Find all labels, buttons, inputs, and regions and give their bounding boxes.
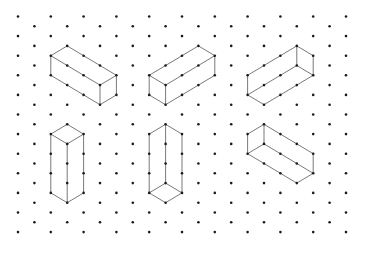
grid-dot bbox=[17, 113, 20, 116]
grid-dot bbox=[279, 152, 282, 155]
grid-dot bbox=[181, 94, 184, 97]
grid-dot bbox=[50, 74, 53, 77]
grid-dot bbox=[66, 25, 69, 28]
grid-dot bbox=[312, 211, 315, 214]
grid-dot bbox=[17, 35, 20, 38]
grid-dot bbox=[296, 45, 299, 48]
grid-dot bbox=[148, 54, 151, 57]
prism-edge bbox=[149, 183, 165, 193]
grid-dot bbox=[279, 15, 282, 18]
grid-dot bbox=[214, 35, 217, 38]
grid-dot bbox=[214, 94, 217, 97]
grid-dot bbox=[50, 113, 53, 116]
grid-dot bbox=[263, 201, 266, 204]
grid-dot bbox=[33, 143, 36, 146]
grid-dot bbox=[66, 64, 69, 67]
grid-dot bbox=[328, 162, 331, 165]
grid-dot bbox=[263, 45, 266, 48]
grid-dot bbox=[296, 143, 299, 146]
grid-dot bbox=[263, 182, 266, 185]
grid-dot bbox=[164, 143, 167, 146]
grid-dot bbox=[197, 221, 200, 224]
grid-dot bbox=[263, 123, 266, 126]
grid-dot bbox=[17, 231, 20, 234]
grid-dot bbox=[246, 15, 249, 18]
grid-dot bbox=[312, 15, 315, 18]
grid-dot bbox=[181, 172, 184, 175]
grid-dot bbox=[50, 231, 53, 234]
grid-dot bbox=[148, 35, 151, 38]
prism-edge bbox=[149, 95, 165, 105]
grid-dot bbox=[50, 15, 53, 18]
grid-dot bbox=[132, 123, 135, 126]
grid-dot bbox=[296, 84, 299, 87]
grid-dot bbox=[296, 103, 299, 106]
grid-dot bbox=[115, 152, 118, 155]
grid-dot bbox=[115, 35, 118, 38]
grid-dot bbox=[263, 84, 266, 87]
grid-dot bbox=[148, 94, 151, 97]
grid-dot bbox=[263, 143, 266, 146]
grid-dot bbox=[66, 103, 69, 106]
grid-dot bbox=[312, 172, 315, 175]
grid-dot bbox=[99, 64, 102, 67]
grid-dot bbox=[50, 192, 53, 195]
grid-dot bbox=[17, 152, 20, 155]
grid-dot bbox=[164, 201, 167, 204]
prism-edge bbox=[51, 56, 100, 85]
prism-edge bbox=[297, 66, 313, 76]
grid-dot bbox=[164, 64, 167, 67]
grid-dot bbox=[230, 45, 233, 48]
grid-dot bbox=[164, 84, 167, 87]
prism-edges-layer bbox=[51, 46, 313, 203]
grid-dot bbox=[33, 201, 36, 204]
grid-dot bbox=[312, 133, 315, 136]
grid-dot bbox=[17, 133, 20, 136]
grid-dot bbox=[82, 35, 85, 38]
grid-dot bbox=[345, 172, 348, 175]
grid-dot bbox=[345, 152, 348, 155]
grid-dot bbox=[99, 162, 102, 165]
grid-dot bbox=[296, 64, 299, 67]
grid-dot bbox=[296, 221, 299, 224]
prism-edge bbox=[166, 183, 182, 193]
grid-dot bbox=[181, 74, 184, 77]
grid-dot bbox=[246, 211, 249, 214]
grid-dot bbox=[115, 74, 118, 77]
grid-dot bbox=[197, 64, 200, 67]
grid-dot bbox=[164, 221, 167, 224]
grid-dot bbox=[197, 45, 200, 48]
grid-dot bbox=[263, 25, 266, 28]
grid-dot bbox=[328, 123, 331, 126]
grid-dot bbox=[279, 35, 282, 38]
grid-dot bbox=[230, 25, 233, 28]
grid-dot bbox=[197, 123, 200, 126]
prism-edge bbox=[297, 173, 313, 183]
grid-dot bbox=[115, 211, 118, 214]
grid-dot bbox=[279, 94, 282, 97]
grid-dot bbox=[164, 162, 167, 165]
grid-dot bbox=[279, 211, 282, 214]
grid-dot bbox=[33, 182, 36, 185]
grid-dot bbox=[181, 54, 184, 57]
grid-dots-layer bbox=[17, 15, 348, 233]
grid-dot bbox=[345, 15, 348, 18]
prism-edge bbox=[100, 95, 116, 105]
grid-dot bbox=[263, 221, 266, 224]
grid-dot bbox=[66, 182, 69, 185]
grid-dot bbox=[230, 84, 233, 87]
prism-edge bbox=[248, 46, 297, 75]
grid-dot bbox=[263, 162, 266, 165]
grid-dot bbox=[345, 94, 348, 97]
grid-dot bbox=[214, 54, 217, 57]
grid-dot bbox=[328, 64, 331, 67]
grid-dot bbox=[214, 192, 217, 195]
grid-dot bbox=[197, 201, 200, 204]
grid-dot bbox=[99, 45, 102, 48]
grid-dot bbox=[296, 123, 299, 126]
grid-dot bbox=[312, 74, 315, 77]
grid-dot bbox=[132, 64, 135, 67]
grid-dot bbox=[66, 201, 69, 204]
grid-dot bbox=[148, 192, 151, 195]
grid-dot bbox=[197, 103, 200, 106]
